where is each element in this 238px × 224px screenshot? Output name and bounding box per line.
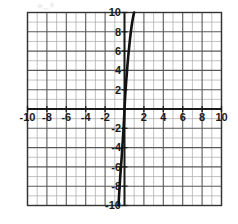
x-tick-label: -6 xyxy=(61,111,71,123)
y-tick-label: 2 xyxy=(115,84,121,96)
y-tick-label: 10 xyxy=(109,6,121,18)
x-tick-label: 4 xyxy=(160,111,167,123)
x-tick-label: -8 xyxy=(42,111,52,123)
x-tick-label: 10 xyxy=(215,111,227,123)
coordinate-plane-chart: -10-8-6-4-2246810 108642-2-4-6-8-10 xyxy=(0,0,238,224)
y-tick-label: 6 xyxy=(115,45,121,57)
y-tick-label: -4 xyxy=(111,141,122,153)
x-tick-label: -10 xyxy=(20,111,36,123)
y-tick-label: -2 xyxy=(111,122,121,134)
x-tick-label: -4 xyxy=(81,111,92,123)
x-tick-label: 2 xyxy=(141,111,147,123)
y-tick-label: 4 xyxy=(115,64,122,76)
y-tick-label: 8 xyxy=(115,26,121,38)
x-tick-label: 8 xyxy=(199,111,205,123)
x-tick-label: -2 xyxy=(100,111,110,123)
x-tick-label: 6 xyxy=(180,111,186,123)
coordinate-grid-figure: -10-8-6-4-2246810 108642-2-4-6-8-10 xyxy=(0,0,238,224)
